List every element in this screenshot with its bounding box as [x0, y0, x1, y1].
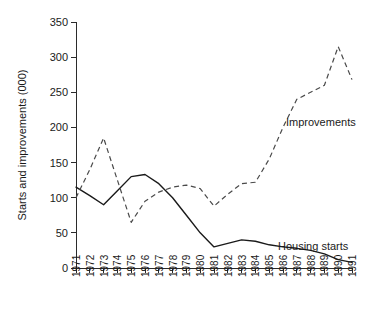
x-tick-label: 1977	[154, 254, 165, 277]
y-tick-label: 300	[50, 51, 68, 63]
improvements-series-label: Improvements	[286, 116, 356, 128]
x-tick-label: 1984	[250, 254, 261, 277]
y-tick-label: 250	[50, 86, 68, 98]
x-tick-label: 1983	[237, 254, 248, 277]
y-tick-label: 200	[50, 121, 68, 133]
x-tick-label: 1989	[319, 254, 330, 277]
x-tick-label: 1976	[140, 254, 151, 277]
x-tick-label: 1986	[278, 254, 289, 277]
y-tick-label: 100	[50, 192, 68, 204]
y-tick-label: 350	[50, 16, 68, 28]
series-annotations: ImprovementsHousing starts	[278, 116, 356, 252]
x-tick-label: 1980	[195, 254, 206, 277]
y-tick-label: 50	[56, 227, 68, 239]
x-tick-label: 1978	[168, 254, 179, 277]
x-tick-label: 1972	[85, 254, 96, 277]
y-axis-title: Starts and improvements (000)	[16, 69, 28, 220]
x-tick-label: 1991	[347, 254, 358, 277]
series-lines	[76, 47, 352, 263]
housing-starts-series-label: Housing starts	[278, 240, 349, 252]
y-axis: 050100150200250300350	[50, 16, 76, 274]
x-tick-label: 1979	[181, 254, 192, 277]
x-tick-label: 1975	[126, 254, 137, 277]
x-axis: 1971197219731974197519761977197819791980…	[71, 254, 358, 277]
x-tick-label: 1988	[306, 254, 317, 277]
x-tick-label: 1971	[71, 254, 82, 277]
chart-canvas: 050100150200250300350 197119721973197419…	[0, 0, 381, 331]
y-tick-label: 150	[50, 157, 68, 169]
y-tick-label: 0	[62, 262, 68, 274]
x-tick-label: 1987	[292, 254, 303, 277]
line-chart: 050100150200250300350 197119721973197419…	[0, 0, 381, 331]
series-line-improvements	[76, 47, 352, 223]
x-tick-label: 1973	[99, 254, 110, 277]
x-tick-label: 1981	[209, 254, 220, 277]
x-tick-label: 1974	[112, 254, 123, 277]
x-tick-label: 1985	[264, 254, 275, 277]
x-tick-label: 1982	[223, 254, 234, 277]
